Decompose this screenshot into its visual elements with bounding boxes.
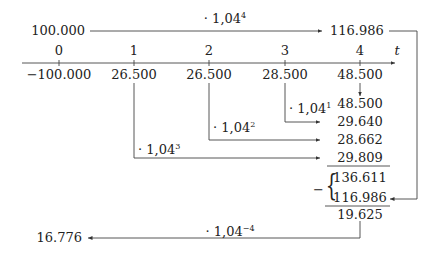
factor-base: · 1,04	[205, 224, 242, 239]
compounded-value-t3: 29.640	[337, 115, 383, 129]
future-value: 116.986	[330, 24, 384, 38]
cashflow-3: 28.500	[262, 68, 308, 82]
cashflow-4: 48.500	[337, 68, 383, 82]
factor-base: · 1,04	[138, 142, 175, 157]
factor-exponent: 4	[241, 11, 246, 20]
minus-sign: −	[313, 183, 324, 197]
compound-factor-label: · 1,044	[204, 9, 246, 26]
compounded-value-t2: 28.662	[337, 133, 383, 147]
cashflow-1: 26.500	[111, 68, 157, 82]
factor-label-3: · 1,043	[138, 140, 180, 157]
tick-label-1: 1	[130, 44, 138, 58]
factor-base: · 1,04	[213, 120, 250, 135]
factor-exponent: 3	[175, 142, 180, 151]
cashflow-2: 26.500	[186, 68, 232, 82]
factor-base: · 1,04	[204, 11, 241, 26]
factor-exponent: 2	[250, 120, 255, 129]
tick-label-0: 0	[55, 44, 63, 58]
discounted-value: 16.776	[37, 231, 83, 245]
tick-label-3: 3	[281, 44, 289, 58]
compounded-value-t4: 48.500	[337, 97, 383, 111]
factor-base: · 1,04	[289, 101, 326, 116]
tick-label-2: 2	[205, 44, 213, 58]
discount-factor-label: · 1,04−4	[205, 222, 254, 239]
investment-compounded: 116.986	[333, 191, 387, 205]
factor-exponent: 1	[326, 101, 331, 110]
present-value: 100.000	[31, 24, 85, 38]
tick-label-4: 4	[356, 44, 364, 58]
factor-label-1: · 1,041	[289, 99, 331, 116]
compounded-value-t1: 29.809	[337, 151, 383, 165]
difference-result: 19.625	[337, 208, 383, 222]
axis-label-t: t	[394, 44, 399, 58]
factor-exponent: −4	[243, 224, 255, 233]
cashflow-0: −100.000	[27, 68, 92, 82]
sum-compounded: 136.611	[333, 171, 387, 185]
factor-label-2: · 1,042	[213, 118, 255, 135]
